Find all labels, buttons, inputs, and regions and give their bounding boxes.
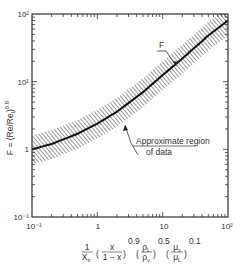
svg-text:1 − x: 1 − x	[103, 252, 122, 262]
svg-text:(: (	[166, 249, 169, 259]
svg-text:): )	[123, 249, 126, 259]
chart: 10² 10¹ 1 10⁻¹ 10⁻¹ 1 10 10² F = (Re/Rel…	[0, 0, 245, 270]
svg-text:μL: μL	[173, 252, 181, 263]
x-tick-label: 10²	[221, 222, 233, 231]
svg-text:(: (	[136, 249, 139, 259]
svg-text:μv: μv	[173, 242, 181, 253]
x-tick-label: 10	[160, 222, 169, 231]
svg-text:0.5: 0.5	[158, 236, 170, 246]
x-tick-label: 10⁻¹	[26, 222, 42, 231]
svg-text:1: 1	[85, 242, 90, 252]
y-tick-label: 1	[25, 145, 30, 154]
svg-text:ρv: ρv	[142, 252, 150, 263]
svg-text:Xtt: Xtt	[82, 252, 91, 263]
curve-label-F: F	[159, 40, 164, 50]
svg-text:0.9: 0.9	[128, 236, 140, 246]
svg-text:0.1: 0.1	[189, 236, 201, 246]
y-axis-label: F = (Re/Rel)0.8	[4, 100, 16, 155]
y-tick-label: 10²	[17, 10, 29, 19]
region-label-line1: Approximate region	[136, 136, 210, 146]
svg-text:x: x	[110, 242, 115, 252]
y-tick-label: 10¹	[17, 78, 29, 87]
svg-text:): )	[184, 249, 187, 259]
svg-text:ρL: ρL	[142, 242, 150, 253]
svg-text:): )	[153, 249, 156, 259]
region-label-line2: of data	[146, 147, 172, 157]
x-tick-label: 1	[96, 222, 101, 231]
arrowhead-icon	[123, 125, 128, 131]
y-tick-label: 10⁻¹	[13, 213, 29, 222]
svg-text:(: (	[96, 249, 99, 259]
x-axis-label: 1 Xtt ( x 1 − x ) 0.9 ( ρL ρv ) 0.5 ( μv…	[82, 236, 201, 263]
